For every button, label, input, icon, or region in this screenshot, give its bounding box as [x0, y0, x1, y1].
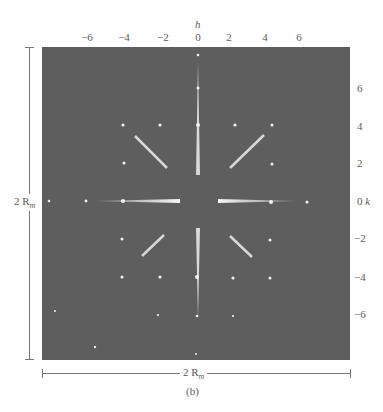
dimension-subscript: m — [30, 201, 36, 210]
horizontal-dimension-cap-left — [42, 369, 43, 378]
horizontal-dimension-label: 2 Rm — [180, 366, 207, 381]
k-tick: 4 — [357, 120, 363, 132]
k-tick: −2 — [354, 232, 366, 244]
k-tick-zero: 0 — [357, 195, 363, 207]
k-axis-label: k — [365, 195, 370, 207]
figure-caption: (b) — [186, 385, 199, 397]
vertical-dimension-label: 2 Rm — [14, 194, 35, 211]
k-tick: 6 — [357, 82, 363, 94]
dimension-text: 2 R — [183, 366, 199, 378]
diffraction-spots — [0, 0, 383, 412]
vertical-dimension-cap-bottom — [25, 359, 34, 360]
vertical-dimension-cap-top — [25, 47, 34, 48]
k-tick: 0 k — [357, 195, 370, 207]
k-tick: −4 — [354, 271, 366, 283]
k-tick: −6 — [354, 308, 366, 320]
horizontal-dimension-cap-right — [350, 369, 351, 378]
dimension-subscript: m — [199, 372, 205, 381]
k-tick: 2 — [357, 157, 363, 169]
dimension-text: 2 R — [14, 195, 30, 207]
